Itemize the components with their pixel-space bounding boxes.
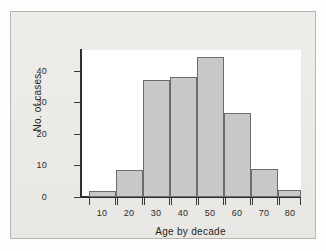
- x-tick-mark: [89, 198, 90, 205]
- x-tick-label: 10: [89, 208, 115, 218]
- bar-age-80: [278, 190, 301, 197]
- x-tick-mark: [252, 198, 253, 205]
- bar-age-10: [89, 191, 116, 197]
- bar-age-20: [116, 170, 143, 197]
- x-tick-mark: [169, 198, 170, 205]
- x-tick-mark: [223, 198, 224, 205]
- x-tick-mark: [300, 198, 301, 205]
- x-tick-label: 20: [116, 208, 142, 218]
- y-tick-mark: [74, 102, 81, 103]
- bar-age-70: [251, 169, 278, 197]
- x-tick-mark: [196, 198, 197, 205]
- y-tick-label: 0: [7, 192, 47, 202]
- x-tick-mark: [277, 198, 278, 205]
- y-tick-mark: [74, 165, 81, 166]
- bar-age-50: [197, 57, 224, 197]
- x-tick-mark: [171, 198, 172, 205]
- x-tick-mark: [225, 198, 226, 205]
- x-tick-mark: [142, 198, 143, 205]
- bar-age-40: [170, 77, 197, 197]
- bar-age-30: [143, 80, 170, 197]
- y-tick-mark: [74, 197, 81, 198]
- x-tick-label: 50: [197, 208, 223, 218]
- bar-age-60: [224, 113, 251, 197]
- x-tick-mark: [115, 198, 116, 205]
- chart-card: 0 10 20 30 40 10 20 30 40: [10, 11, 316, 239]
- x-axis-title: Age by decade: [80, 226, 301, 237]
- x-tick-mark: [250, 198, 251, 205]
- x-tick-label: 40: [170, 208, 196, 218]
- x-tick-mark: [117, 198, 118, 205]
- y-tick-label: 10: [7, 160, 47, 170]
- x-tick-mark: [279, 198, 280, 205]
- x-tick-label: 60: [224, 208, 250, 218]
- x-tick-label: 70: [251, 208, 277, 218]
- x-tick-label: 80: [277, 208, 303, 218]
- x-tick-label: 30: [143, 208, 169, 218]
- x-tick-mark: [144, 198, 145, 205]
- y-tick-mark: [74, 134, 81, 135]
- y-tick-mark: [74, 71, 81, 72]
- x-tick-mark: [198, 198, 199, 205]
- y-axis-title: No. of cases: [32, 53, 43, 153]
- figure-container: 0 10 20 30 40 10 20 30 40: [0, 0, 326, 251]
